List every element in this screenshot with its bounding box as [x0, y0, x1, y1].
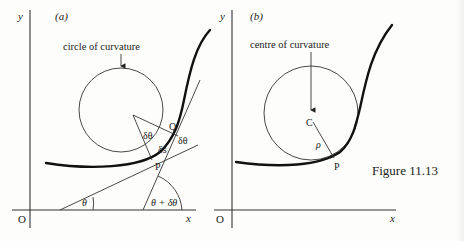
arc-label: δs [158, 144, 167, 155]
radius-label: ρ [315, 139, 321, 150]
angle-arc-theta [93, 197, 94, 210]
tangent-at-p [60, 145, 198, 210]
page-edge-shadow [456, 0, 464, 241]
centre-annotation: centre of curvature [250, 39, 330, 50]
panel-label-b: (b) [250, 10, 263, 23]
figure-canvas: y x O (a) circle of curvature δθ Q δθ δs… [0, 0, 464, 241]
panel-label-a: (a) [55, 10, 68, 23]
origin-label-a: O [18, 213, 26, 225]
x-axis-label-a: x [185, 212, 191, 224]
circle-annotation: circle of curvature [63, 41, 140, 52]
angle-label-center: δθ [143, 130, 153, 141]
angle-label-tangents: δθ [178, 135, 188, 146]
origin-label-b: O [216, 213, 224, 225]
angle-label-theta: θ [82, 197, 87, 208]
x-axis-label-b: x [389, 212, 395, 224]
figure-caption: Figure 11.13 [372, 163, 438, 178]
point-q-label: Q [169, 121, 177, 132]
panel-b: y x O (b) centre of curvature C ρ P [214, 10, 396, 228]
point-p-label: P [155, 161, 161, 172]
point-c-label: C [306, 117, 313, 128]
panel-a: y x O (a) circle of curvature δθ Q δθ δs… [12, 10, 210, 228]
y-axis-label-a: y [17, 10, 23, 22]
point-p-label-b: P [334, 161, 340, 172]
y-axis-label-b: y [219, 10, 225, 22]
tangent-at-q [143, 80, 200, 210]
angle-label-theta-plus: θ + δθ [151, 197, 177, 208]
